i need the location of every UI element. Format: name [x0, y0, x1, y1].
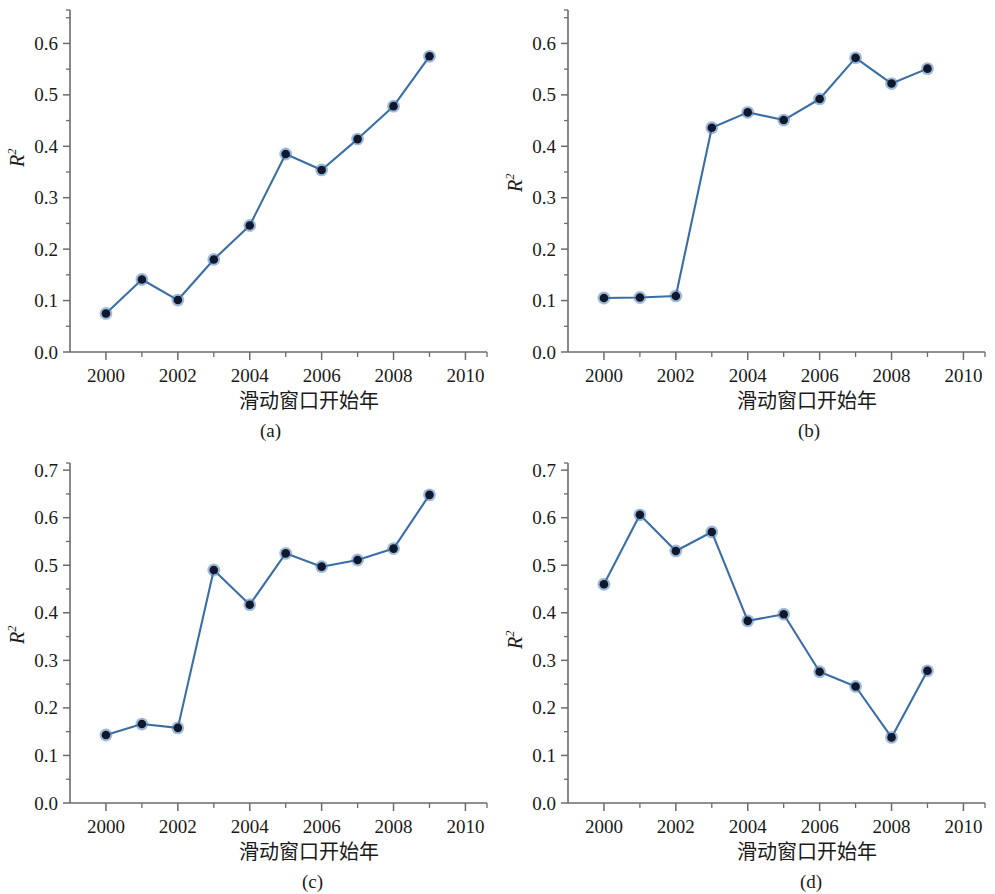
- x-tick-label: 2000: [585, 816, 623, 837]
- data-point: [389, 544, 398, 553]
- panel-c: 0.00.10.20.30.40.50.60.72000200220042006…: [0, 447, 497, 894]
- x-tick-label: 2002: [159, 365, 197, 386]
- x-tick-label: 2008: [375, 816, 413, 837]
- x-tick-label: 2006: [303, 365, 341, 386]
- panel-b-plot: 0.00.10.20.30.40.50.62000200220042006200…: [498, 0, 995, 447]
- x-tick-label: 2002: [657, 365, 695, 386]
- data-point: [887, 79, 896, 88]
- x-tick-label: 2010: [944, 816, 982, 837]
- y-tick-label: 0.6: [532, 507, 556, 528]
- y-tick-label: 0.7: [532, 460, 556, 481]
- x-tick-label: 2000: [585, 365, 623, 386]
- y-tick-label: 0.0: [532, 793, 556, 814]
- panel-d-plot: 0.00.10.20.30.40.50.60.72000200220042006…: [498, 447, 995, 894]
- data-point: [174, 724, 183, 733]
- x-tick-label: 2006: [801, 816, 839, 837]
- panel-a-xlabel: 滑动窗口开始年: [0, 385, 557, 414]
- data-point: [353, 556, 362, 565]
- y-tick-label: 0.4: [34, 136, 58, 157]
- panel-a-ylabel-exponent: 2: [5, 149, 19, 155]
- data-point: [425, 491, 434, 500]
- y-tick-label: 0.0: [34, 342, 58, 363]
- data-point: [815, 95, 824, 104]
- y-tick-label: 0.5: [532, 555, 556, 576]
- data-point: [707, 528, 716, 537]
- y-tick-label: 0.5: [532, 84, 556, 105]
- panel-d-ylabel-base: R: [504, 637, 526, 649]
- x-tick-label: 2010: [944, 365, 982, 386]
- panel-d-ylabel: R2: [503, 631, 527, 649]
- figure-four-panel-r2-chart: 0.00.10.20.30.40.50.62000200220042006200…: [0, 0, 995, 894]
- panel-a-plot: 0.00.10.20.30.40.50.62000200220042006200…: [0, 0, 497, 447]
- data-point: [389, 102, 398, 111]
- data-point: [743, 617, 752, 626]
- panel-a: 0.00.10.20.30.40.50.62000200220042006200…: [0, 0, 497, 447]
- y-tick-label: 0.2: [532, 697, 556, 718]
- y-tick-label: 0.5: [34, 84, 58, 105]
- x-tick-label: 2008: [873, 365, 911, 386]
- panel-c-caption: (c): [302, 871, 323, 893]
- data-point: [102, 309, 111, 318]
- data-point: [672, 292, 681, 301]
- data-point: [317, 166, 326, 175]
- y-tick-label: 0.7: [34, 460, 58, 481]
- series-line: [106, 56, 430, 313]
- data-point: [281, 150, 290, 159]
- y-tick-label: 0.6: [532, 33, 556, 54]
- x-tick-label: 2004: [231, 365, 270, 386]
- y-tick-label: 0.6: [34, 33, 58, 54]
- data-point: [707, 123, 716, 132]
- data-point: [138, 275, 147, 284]
- panel-c-xlabel: 滑动窗口开始年: [0, 836, 557, 865]
- panel-c-ylabel-exponent: 2: [5, 626, 19, 632]
- panel-b-ylabel-base: R: [504, 180, 526, 192]
- data-point: [851, 682, 860, 691]
- y-tick-label: 0.1: [34, 290, 58, 311]
- x-tick-label: 2010: [446, 365, 484, 386]
- y-tick-label: 0.4: [34, 602, 58, 623]
- y-tick-label: 0.6: [34, 507, 58, 528]
- data-point: [209, 566, 218, 575]
- x-tick-label: 2006: [303, 816, 341, 837]
- data-point: [636, 293, 645, 302]
- panel-a-caption: (a): [260, 420, 281, 442]
- series-line: [106, 495, 430, 735]
- data-point: [815, 667, 824, 676]
- panel-b-ylabel-exponent: 2: [503, 174, 517, 180]
- y-tick-label: 0.2: [34, 697, 58, 718]
- data-point: [281, 549, 290, 558]
- y-tick-label: 0.5: [34, 555, 58, 576]
- panel-a-ylabel-base: R: [6, 155, 28, 167]
- panel-b-xlabel: 滑动窗口开始年: [498, 385, 995, 414]
- panel-b-caption: (b): [798, 420, 820, 442]
- data-point: [851, 54, 860, 63]
- y-tick-label: 0.1: [34, 745, 58, 766]
- y-tick-label: 0.3: [532, 187, 556, 208]
- y-tick-label: 0.1: [532, 290, 556, 311]
- y-tick-label: 0.3: [532, 650, 556, 671]
- data-point: [923, 64, 932, 73]
- x-tick-label: 2008: [375, 365, 413, 386]
- y-tick-label: 0.4: [532, 602, 556, 623]
- data-point: [636, 511, 645, 520]
- panel-d-xlabel: 滑动窗口开始年: [498, 836, 995, 865]
- data-point: [779, 610, 788, 619]
- x-tick-label: 2004: [729, 365, 768, 386]
- data-point: [209, 255, 218, 264]
- panel-c-ylabel-base: R: [6, 632, 28, 644]
- panel-c-ylabel: R2: [5, 626, 29, 644]
- panel-c-plot: 0.00.10.20.30.40.50.60.72000200220042006…: [0, 447, 497, 894]
- data-point: [353, 135, 362, 144]
- data-point: [887, 733, 896, 742]
- data-point: [672, 547, 681, 556]
- data-point: [317, 562, 326, 571]
- panel-b-ylabel: R2: [503, 174, 527, 192]
- panel-b: 0.00.10.20.30.40.50.62000200220042006200…: [498, 0, 995, 447]
- data-point: [138, 720, 147, 729]
- x-tick-label: 2008: [873, 816, 911, 837]
- y-tick-label: 0.2: [34, 239, 58, 260]
- data-point: [600, 294, 609, 303]
- data-point: [600, 580, 609, 589]
- data-point: [174, 296, 183, 305]
- data-point: [779, 116, 788, 125]
